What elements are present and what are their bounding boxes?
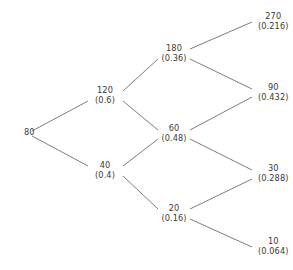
binomial-tree-diagram: 80120(0.6)40(0.4)180(0.36)60(0.48)20(0.1… (0, 0, 293, 270)
tree-edge-n1u-n2uu (123, 59, 158, 91)
node-probability-n3a: (0.216) (258, 22, 289, 32)
tree-edge-n0-n1d (32, 136, 88, 166)
node-probability-n3c: (0.288) (258, 174, 289, 184)
tree-edge-n2ud-n3b (190, 97, 252, 130)
node-probability-n2ud: (0.48) (161, 134, 186, 144)
tree-edge-n2ud-n3c (190, 139, 252, 170)
node-probability-n1d: (0.4) (95, 171, 115, 181)
tree-edge-n1d-n2ud (123, 139, 158, 166)
tree-node-n3c: 30(0.288) (258, 164, 289, 183)
tree-edge-n1d-n2dd (123, 176, 158, 209)
tree-edge-n1u-n2ud (123, 101, 158, 130)
tree-node-n2ud: 60(0.48) (161, 124, 186, 143)
node-probability-n3d: (0.064) (258, 247, 289, 257)
tree-edge-n2dd-n3d (190, 219, 252, 247)
tree-edge-layer (0, 0, 293, 270)
node-probability-n3b: (0.432) (258, 93, 289, 103)
tree-edge-n2uu-n3b (190, 59, 252, 89)
tree-node-n1d: 40(0.4) (95, 161, 115, 180)
node-value-n0: 80 (24, 128, 35, 138)
tree-edge-n0-n1u (32, 101, 88, 131)
tree-node-n2uu: 180(0.36) (161, 44, 186, 63)
tree-edge-n2dd-n3c (190, 179, 252, 209)
tree-node-n3b: 90(0.432) (258, 83, 289, 102)
node-probability-n2dd: (0.16) (161, 214, 186, 224)
tree-node-n1u: 120(0.6) (95, 86, 115, 105)
tree-node-n0: 80 (24, 128, 35, 138)
tree-node-n3a: 270(0.216) (258, 12, 289, 31)
tree-node-n3d: 10(0.064) (258, 237, 289, 256)
node-probability-n1u: (0.6) (95, 96, 115, 106)
tree-edge-n2uu-n3a (190, 22, 252, 49)
tree-node-n2dd: 20(0.16) (161, 204, 186, 223)
node-probability-n2uu: (0.36) (161, 54, 186, 64)
